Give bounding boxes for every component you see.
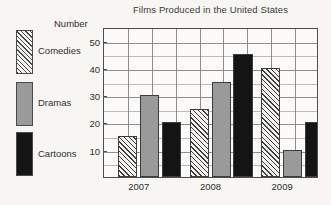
bar-cartoons-2009 xyxy=(305,122,318,177)
y-axis-tick-label: 30 xyxy=(78,91,100,102)
y-axis-tick-mark xyxy=(103,42,107,43)
gridline-major xyxy=(104,124,317,125)
bar-cartoons-2008 xyxy=(233,54,252,177)
bar-dramas-2007 xyxy=(140,95,159,177)
bar-comedies-2008 xyxy=(190,109,209,177)
legend-label-dramas: Dramas xyxy=(38,97,71,108)
gridline-major xyxy=(104,70,317,71)
legend-swatch-comedies xyxy=(16,30,33,74)
y-axis-tick-mark xyxy=(103,123,107,124)
y-axis-tick-mark xyxy=(103,69,107,70)
gridline-minor xyxy=(104,84,317,85)
gridline-major xyxy=(104,43,317,44)
x-axis-tick-label: 2009 xyxy=(272,181,293,192)
y-axis-tick-mark xyxy=(103,151,107,152)
x-axis-tick-label: 2007 xyxy=(128,181,149,192)
bar-cartoons-2007 xyxy=(162,122,181,177)
legend-swatch-dramas xyxy=(16,82,33,126)
legend-label-cartoons: Cartoons xyxy=(38,148,77,159)
y-axis-tick-label: 20 xyxy=(78,118,100,129)
y-axis-tick-label: 40 xyxy=(78,63,100,74)
chart-page: Films Produced in the United States Come… xyxy=(0,0,331,205)
bar-dramas-2008 xyxy=(212,82,231,177)
legend-swatch-cartoons xyxy=(16,132,33,176)
y-axis-tick-labels: 1020304050 xyxy=(76,28,100,178)
bar-comedies-2007 xyxy=(118,136,137,177)
gridline-major xyxy=(104,97,317,98)
gridline-minor xyxy=(104,56,317,57)
bar-comedies-2009 xyxy=(261,68,280,177)
legend-label-comedies: Comedies xyxy=(38,45,81,56)
y-axis-tick-mark xyxy=(103,96,107,97)
gridline-minor xyxy=(104,111,317,112)
chart-title: Films Produced in the United States xyxy=(103,4,318,15)
y-axis-tick-label: 50 xyxy=(78,36,100,47)
plot-area xyxy=(103,28,318,178)
y-axis-tick-label: 10 xyxy=(78,145,100,156)
bar-dramas-2009 xyxy=(283,150,302,177)
x-axis-tick-label: 2008 xyxy=(200,181,221,192)
